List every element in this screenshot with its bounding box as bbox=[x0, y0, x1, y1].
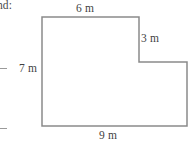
dimension-label-left: 7 m bbox=[19, 62, 37, 75]
dimension-label-bottom: 9 m bbox=[99, 129, 117, 142]
dimension-label-top: 6 m bbox=[76, 2, 94, 15]
l-shape-outline bbox=[42, 17, 187, 126]
dimension-label-step-right: 3 m bbox=[141, 32, 159, 45]
figure-page: nd: 6 m 3 m 7 m 9 m bbox=[0, 0, 196, 147]
